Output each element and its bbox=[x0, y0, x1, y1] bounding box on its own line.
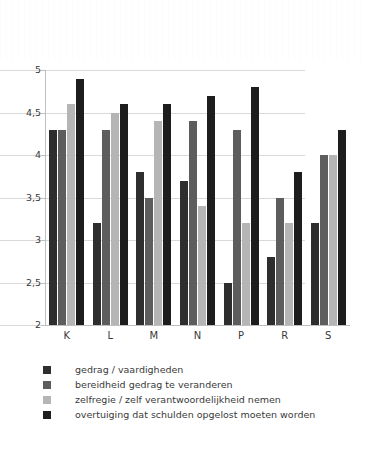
bars-layer bbox=[45, 70, 350, 325]
bar bbox=[76, 79, 84, 326]
y-tick-label: 4,5 bbox=[7, 108, 41, 118]
legend-item[interactable]: zelfregie / zelf verantwoordelijkheid ne… bbox=[43, 392, 343, 407]
bar bbox=[189, 121, 197, 325]
bar bbox=[233, 130, 241, 326]
bar bbox=[145, 198, 153, 326]
bar bbox=[198, 206, 206, 325]
bar-group bbox=[136, 70, 171, 325]
legend-item[interactable]: gedrag / vaardigheden bbox=[43, 362, 343, 377]
legend-swatch bbox=[43, 396, 51, 404]
x-category-label: L bbox=[90, 330, 130, 341]
y-tick-label: 4 bbox=[7, 150, 41, 160]
y-tick-label: 2 bbox=[7, 320, 41, 330]
y-tick-label: 3,5 bbox=[7, 193, 41, 203]
bar bbox=[311, 223, 319, 325]
legend-label: bereidheid gedrag te veranderen bbox=[75, 379, 233, 390]
bar bbox=[163, 104, 171, 325]
y-tick-label: 2,5 bbox=[7, 278, 41, 288]
bar-chart: 54,543,532,52 KLMNPRS gedrag / vaardighe… bbox=[0, 0, 365, 449]
bar bbox=[224, 283, 232, 326]
bar-group bbox=[180, 70, 215, 325]
x-category-label: M bbox=[134, 330, 174, 341]
bar bbox=[320, 155, 328, 325]
bar bbox=[207, 96, 215, 326]
legend: gedrag / vaardighedenbereidheid gedrag t… bbox=[43, 362, 343, 422]
y-tick-label: 5 bbox=[7, 65, 41, 75]
legend-label: zelfregie / zelf verantwoordelijkheid ne… bbox=[75, 394, 281, 405]
bar bbox=[93, 223, 101, 325]
bar-group bbox=[267, 70, 302, 325]
legend-item[interactable]: bereidheid gedrag te veranderen bbox=[43, 377, 343, 392]
bar bbox=[276, 198, 284, 326]
plot-wrapper: 54,543,532,52 KLMNPRS bbox=[0, 0, 365, 355]
bar-group bbox=[93, 70, 128, 325]
bar-group bbox=[311, 70, 346, 325]
bar-group bbox=[49, 70, 84, 325]
bar bbox=[120, 104, 128, 325]
legend-label: gedrag / vaardigheden bbox=[75, 364, 183, 375]
x-axis-category-labels: KLMNPRS bbox=[45, 330, 350, 348]
bar-group bbox=[224, 70, 259, 325]
bar bbox=[111, 113, 119, 326]
bar bbox=[329, 155, 337, 325]
x-category-label: K bbox=[47, 330, 87, 341]
bar bbox=[67, 104, 75, 325]
x-category-label: S bbox=[308, 330, 348, 341]
legend-swatch bbox=[43, 411, 51, 419]
bar bbox=[154, 121, 162, 325]
bar bbox=[251, 87, 259, 325]
y-tick-label: 3 bbox=[7, 235, 41, 245]
bar bbox=[180, 181, 188, 326]
x-category-label: N bbox=[178, 330, 218, 341]
legend-swatch bbox=[43, 381, 51, 389]
bar bbox=[338, 130, 346, 326]
bar bbox=[49, 130, 57, 326]
x-category-label: P bbox=[221, 330, 261, 341]
legend-label: overtuiging dat schulden opgelost moeten… bbox=[75, 409, 315, 420]
bar bbox=[102, 130, 110, 326]
legend-item[interactable]: overtuiging dat schulden opgelost moeten… bbox=[43, 407, 343, 422]
bar bbox=[242, 223, 250, 325]
bar bbox=[285, 223, 293, 325]
x-axis-line bbox=[45, 325, 350, 326]
y-axis-tick-labels: 54,543,532,52 bbox=[4, 70, 41, 325]
bar bbox=[136, 172, 144, 325]
x-category-label: R bbox=[265, 330, 305, 341]
bar bbox=[294, 172, 302, 325]
bar bbox=[58, 130, 66, 326]
legend-swatch bbox=[43, 366, 51, 374]
bar bbox=[267, 257, 275, 325]
